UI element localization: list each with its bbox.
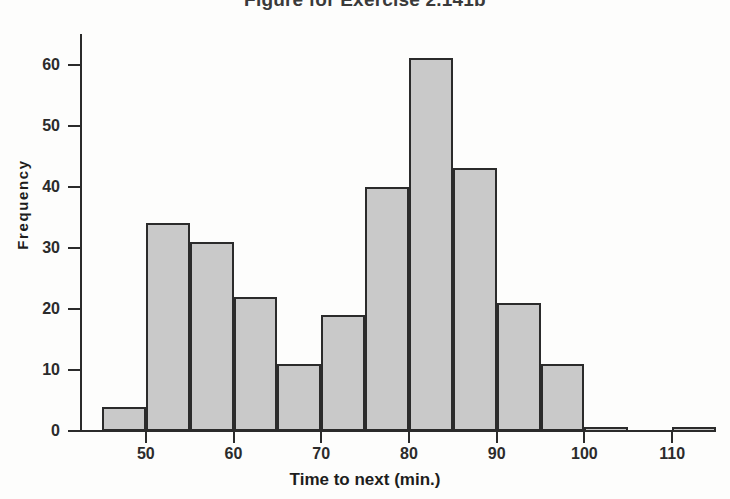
x-axis-tick (145, 432, 147, 443)
x-axis-tick (233, 432, 235, 443)
x-axis-tick-label: 50 (121, 446, 171, 462)
histogram-figure: Figure for Exercise 2.141b 0102030405060… (0, 0, 730, 499)
x-axis-tick (496, 432, 498, 443)
x-axis-tick (583, 432, 585, 443)
x-axis-tick (671, 432, 673, 443)
x-axis-tick (320, 432, 322, 443)
x-axis-label: Time to next (min.) (0, 470, 730, 490)
x-axis-tick-label: 110 (647, 446, 697, 462)
x-axis-tick-label: 60 (209, 446, 259, 462)
x-axis-tick-label: 90 (472, 446, 522, 462)
x-axis-tick-label: 80 (384, 446, 434, 462)
x-axis-ticks: 5060708090100110 (0, 0, 730, 499)
x-axis-tick (408, 432, 410, 443)
x-axis-tick-label: 70 (296, 446, 346, 462)
x-axis-tick-label: 100 (559, 446, 609, 462)
y-axis-label: Frequency (14, 115, 31, 295)
